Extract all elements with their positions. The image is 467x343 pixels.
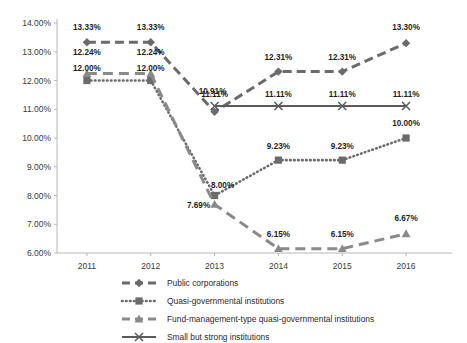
- legend-item-3[interactable]: Fund-management-type quasi-governmental …: [122, 314, 374, 324]
- data-label: 12.24%: [73, 48, 101, 57]
- data-label: 9.23%: [267, 142, 291, 151]
- series-layer: [83, 38, 411, 252]
- data-label: 13.33%: [137, 23, 165, 32]
- data-label: 7.69%: [187, 201, 211, 210]
- data-label: 11.11%: [201, 90, 229, 99]
- marker-diamond: [402, 39, 410, 47]
- data-label: 6.15%: [267, 230, 291, 239]
- data-label: 12.00%: [137, 64, 165, 73]
- data-label: 12.24%: [137, 48, 165, 57]
- data-label: 12.00%: [73, 64, 101, 73]
- data-label: 12.31%: [265, 53, 293, 62]
- x-tick-label: 2012: [141, 261, 160, 271]
- marker-diamond: [83, 38, 91, 46]
- marker-square: [83, 77, 90, 84]
- data-label: 11.11%: [393, 90, 421, 99]
- x-tick-label: 2011: [78, 261, 97, 271]
- y-tick-label: 7.00%: [27, 219, 52, 229]
- series-3: [83, 69, 411, 252]
- legend-label: Public corporations: [167, 278, 238, 288]
- series-4: [211, 102, 411, 110]
- series-1: [83, 38, 411, 116]
- data-label: 9.23%: [331, 142, 355, 151]
- marker-square: [211, 192, 218, 199]
- legend-label: Fund-management-type quasi-governmental …: [167, 314, 374, 324]
- y-tick-label: 13.00%: [22, 47, 51, 57]
- y-axis: 6.00%7.00%8.00%9.00%10.00%11.00%12.00%13…: [22, 18, 57, 258]
- marker-square: [275, 157, 282, 164]
- y-tick-label: 14.00%: [22, 18, 51, 28]
- series-line: [87, 42, 406, 112]
- series-line: [87, 74, 406, 249]
- x-axis: 201120122013201420152016: [57, 253, 452, 271]
- x-tick-label: 2016: [397, 261, 416, 271]
- y-tick-label: 6.00%: [27, 248, 52, 258]
- marker-triangle: [210, 200, 219, 208]
- legend-label: Small but strong institutions: [167, 332, 269, 342]
- line-chart: 6.00%7.00%8.00%9.00%10.00%11.00%12.00%13…: [0, 0, 467, 343]
- data-label: 10.00%: [392, 119, 420, 128]
- chart-container: 6.00%7.00%8.00%9.00%10.00%11.00%12.00%13…: [0, 0, 467, 343]
- legend-item-4[interactable]: Small but strong institutions: [122, 332, 269, 342]
- data-label: 13.30%: [392, 23, 420, 32]
- legend-item-1[interactable]: Public corporations: [122, 278, 238, 288]
- x-tick-label: 2014: [269, 261, 288, 271]
- data-label: 8.00%: [211, 181, 235, 190]
- data-labels-layer: 13.33%13.33%10.91%12.31%12.31%13.30%12.0…: [73, 23, 421, 239]
- marker-triangle: [402, 229, 411, 237]
- x-tick-label: 2015: [333, 261, 352, 271]
- data-label: 6.15%: [331, 230, 355, 239]
- marker-square: [135, 297, 142, 304]
- marker-square: [402, 134, 409, 141]
- marker-diamond: [147, 38, 155, 46]
- x-tick-label: 2013: [205, 261, 224, 271]
- y-tick-label: 10.00%: [22, 133, 51, 143]
- data-label: 11.11%: [329, 90, 357, 99]
- marker-diamond: [135, 279, 143, 287]
- chart-legend: Public corporationsQuasi-governmental in…: [122, 278, 374, 342]
- y-tick-label: 12.00%: [22, 76, 51, 86]
- data-label: 13.33%: [73, 23, 101, 32]
- data-label: 11.11%: [265, 90, 293, 99]
- legend-label: Quasi-governmental institutions: [167, 296, 284, 306]
- y-tick-label: 8.00%: [27, 191, 52, 201]
- data-label: 6.67%: [394, 214, 418, 223]
- y-tick-label: 9.00%: [27, 162, 52, 172]
- series-line: [87, 81, 406, 196]
- y-tick-label: 11.00%: [23, 104, 52, 114]
- data-label: 12.31%: [328, 53, 356, 62]
- legend-item-2[interactable]: Quasi-governmental institutions: [122, 296, 284, 306]
- marker-square: [339, 157, 346, 164]
- series-2: [83, 77, 409, 199]
